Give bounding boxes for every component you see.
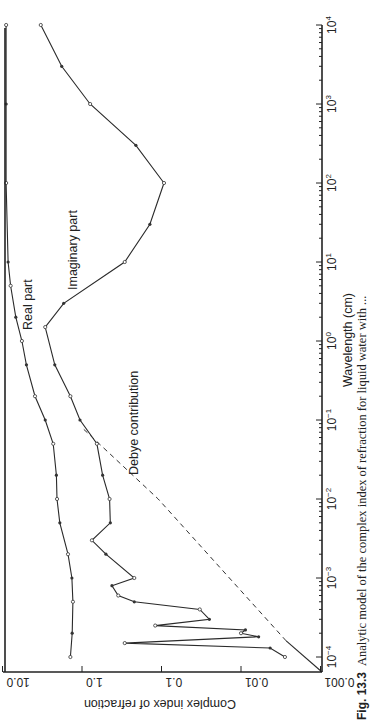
data-marker	[69, 395, 72, 398]
figure-caption: Fig. 13.3Analytic model of the complex i…	[355, 296, 369, 720]
data-marker	[117, 594, 120, 597]
data-marker	[90, 539, 93, 542]
refraction-axis-title: Complex index of refraction	[84, 697, 236, 711]
wavelength-axis-title: Wavelength (cm)	[341, 293, 355, 387]
data-marker	[55, 474, 58, 477]
data-marker	[109, 521, 112, 524]
data-marker	[101, 474, 104, 477]
data-marker	[110, 584, 113, 587]
data-marker	[133, 576, 136, 579]
imaginary-part-label: Imaginary part	[66, 210, 80, 290]
data-marker	[134, 144, 137, 147]
data-marker	[244, 628, 247, 631]
data-marker	[9, 284, 12, 287]
wavelength-tick-label: 104	[324, 16, 339, 34]
debye-contribution-curve	[82, 428, 286, 641]
data-marker	[71, 632, 74, 635]
debye-baseline-segment	[286, 641, 322, 672]
data-marker	[257, 635, 260, 638]
wavelength-ticks: 10−410−310−210−1100101102103104	[316, 16, 339, 669]
data-marker	[66, 553, 69, 556]
data-marker	[39, 23, 42, 26]
refraction-tick-label: 0.001	[324, 675, 354, 689]
data-marker	[7, 260, 10, 263]
data-marker	[62, 302, 65, 305]
refraction-tick-label: 1.0	[86, 675, 103, 689]
caption-label: Fig. 13.3	[355, 672, 369, 720]
data-marker	[198, 608, 201, 611]
data-marker	[52, 442, 55, 445]
refraction-tick-label: 0.01	[245, 675, 269, 689]
data-marker	[269, 646, 272, 649]
refraction-ticks: 0.0010.010.11.010.0	[3, 666, 355, 689]
refraction-tick-label: 10.0	[6, 675, 30, 689]
data-marker	[108, 497, 111, 500]
plot-area	[5, 23, 322, 672]
data-marker	[208, 618, 211, 621]
data-marker	[162, 181, 165, 184]
data-marker	[44, 325, 47, 328]
rotated-chart: 10−410−310−210−1100101102103104 0.0010.0…	[0, 0, 370, 720]
svg-text:Fig. 13.3Analytic model of the: Fig. 13.3Analytic model of the complex i…	[355, 296, 369, 720]
data-marker	[123, 641, 126, 644]
data-marker	[148, 223, 151, 226]
data-marker	[78, 418, 81, 421]
data-marker	[123, 260, 126, 263]
wavelength-tick-label: 10−1	[324, 408, 339, 431]
data-marker	[283, 655, 286, 658]
data-marker	[239, 632, 242, 635]
data-marker	[104, 553, 107, 556]
real-part-label: Real part	[21, 279, 35, 330]
data-marker	[55, 497, 58, 500]
data-marker	[53, 363, 56, 366]
data-marker	[154, 624, 157, 627]
wavelength-tick-label: 100	[324, 332, 339, 350]
data-marker	[14, 316, 17, 319]
data-marker	[58, 521, 61, 524]
data-marker	[25, 363, 28, 366]
wavelength-tick-label: 101	[324, 253, 339, 271]
data-marker	[33, 395, 36, 398]
imaginary-part-curve	[41, 25, 285, 657]
wavelength-tick-label: 102	[324, 174, 339, 192]
wavelength-tick-label: 103	[324, 95, 339, 113]
refraction-tick-label: 0.1	[165, 675, 182, 689]
data-marker	[70, 576, 73, 579]
wavelength-tick-label: 10−3	[324, 566, 339, 589]
data-marker	[5, 23, 8, 26]
caption-text: Analytic model of the complex index of r…	[355, 296, 369, 666]
data-marker	[89, 102, 92, 105]
data-marker	[60, 65, 63, 68]
data-marker	[44, 418, 47, 421]
data-marker	[133, 600, 136, 603]
wavelength-tick-label: 10−2	[324, 487, 339, 510]
wavelength-tick-label: 10−4	[324, 645, 339, 668]
data-marker	[69, 655, 72, 658]
debye-contribution-label: Debye contribution	[127, 371, 141, 475]
data-marker	[71, 600, 74, 603]
data-marker	[20, 339, 23, 342]
real-part-curve	[6, 25, 73, 657]
